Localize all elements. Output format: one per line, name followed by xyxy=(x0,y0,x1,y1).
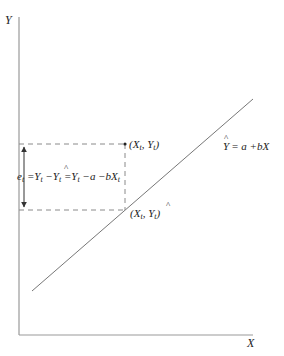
y-axis-label: Y xyxy=(5,13,13,27)
regression-line xyxy=(32,99,253,291)
observed-point-dot xyxy=(123,142,126,145)
regression-diagram: Y X (Xt, Yt) (Xt, Yt) ^ Y= a +bX ^ et =Y… xyxy=(0,0,284,356)
x-axis-label: X xyxy=(246,336,255,350)
observed-point-label: (Xt, Yt) xyxy=(129,138,159,152)
fitted-hat-icon: ^ xyxy=(166,200,171,210)
regression-equation: Y= a +bX xyxy=(223,140,270,152)
residual-formula: et =Yt −Yt =Yt −a −bXt xyxy=(17,170,121,184)
fitted-point-label: (Xt, Yt) xyxy=(130,207,160,221)
